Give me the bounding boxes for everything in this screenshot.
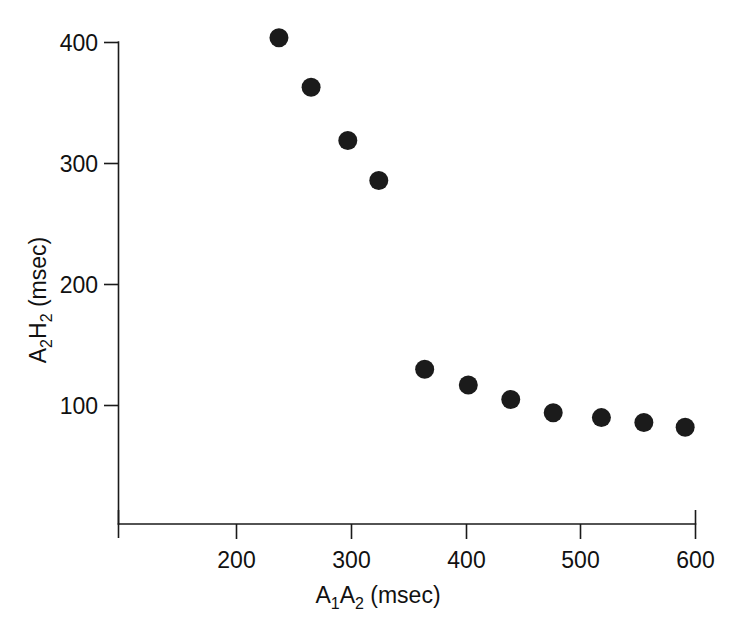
y-axis-title: A2H2 (msec) [25,237,55,363]
data-point [459,375,478,394]
x-tick-label-400: 400 [447,547,485,573]
data-point [544,403,563,422]
y-axis-title-a: A [25,347,51,363]
data-point [269,28,288,47]
x-tick-label-500: 500 [561,547,599,573]
y-axis-title-unit: (msec) [25,237,51,314]
x-axis-title-a2: A [340,582,356,608]
data-point [592,408,611,427]
x-tick-labels: 200 300 400 500 600 [217,547,714,573]
x-axis-title-sub2: 2 [355,595,364,612]
x-axis-title-a1: A [315,582,331,608]
x-tick-label-300: 300 [332,547,370,573]
x-tick-label-200: 200 [217,547,255,573]
y-tick-marks [104,43,118,406]
x-axis-title-sub1: 1 [331,595,340,612]
data-point [634,413,653,432]
x-axis-title: A1A2 (msec) [315,582,440,612]
y-axis-title-sub2: 2 [38,313,55,322]
data-point [676,418,695,437]
scatter-plot-figure: 400 300 200 100 200 300 400 500 600 A1A2… [0,0,745,627]
data-point [415,360,434,379]
y-axis-title-sub1: 2 [38,339,55,348]
x-tick-label-600: 600 [676,547,714,573]
data-point [338,131,357,150]
y-tick-label-200: 200 [60,272,98,298]
plot-canvas: 400 300 200 100 200 300 400 500 600 A1A2… [0,0,745,627]
data-point [501,390,520,409]
y-tick-label-300: 300 [60,151,98,177]
data-point [369,171,388,190]
data-point [302,78,321,97]
y-tick-label-100: 100 [60,393,98,419]
x-axis-title-unit: (msec) [364,582,441,608]
data-point-series [269,28,694,437]
y-tick-labels: 400 300 200 100 [60,30,98,419]
y-axis-title-h: H [25,322,51,339]
y-tick-label-400: 400 [60,30,98,56]
